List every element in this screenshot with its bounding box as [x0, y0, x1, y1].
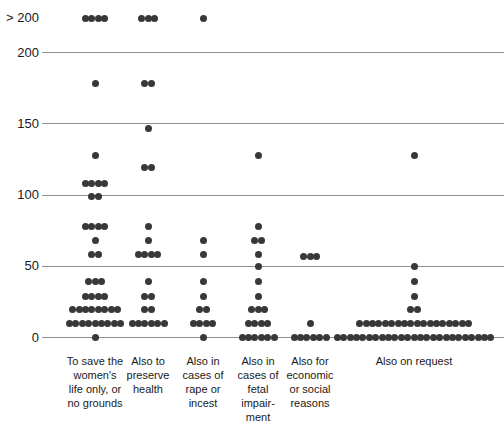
- data-dot: [209, 320, 216, 327]
- data-dot: [200, 15, 207, 22]
- data-dot: [154, 251, 161, 258]
- data-dot: [161, 320, 168, 327]
- data-dot: [101, 293, 108, 300]
- data-dot: [255, 278, 262, 285]
- gridline: [42, 52, 504, 53]
- y-axis-tick-label: 100: [0, 187, 39, 203]
- y-axis-tick-label: > 200: [0, 10, 39, 26]
- data-dot: [411, 293, 418, 300]
- data-dot: [148, 164, 155, 171]
- data-dot: [92, 80, 99, 87]
- y-axis-tick-label: 200: [0, 45, 39, 61]
- data-dot: [271, 334, 278, 341]
- data-dot: [255, 152, 262, 159]
- data-dot: [101, 223, 108, 230]
- data-dot: [92, 237, 99, 244]
- data-dot: [313, 253, 320, 260]
- data-dot: [465, 320, 472, 327]
- data-dot: [255, 251, 262, 258]
- data-dot: [323, 334, 330, 341]
- data-dot: [264, 320, 271, 327]
- gridline: [42, 123, 504, 124]
- y-axis-tick-label: 50: [0, 258, 39, 274]
- data-dot: [95, 193, 102, 200]
- data-dot: [148, 80, 155, 87]
- data-dot: [101, 15, 108, 22]
- data-dot: [114, 306, 121, 313]
- data-dot: [98, 278, 105, 285]
- dot-plot-chart: > 200200150100500To save the women's lif…: [0, 0, 504, 430]
- data-dot: [307, 320, 314, 327]
- x-axis-category-label: Also on request: [344, 354, 484, 368]
- data-dot: [200, 334, 207, 341]
- gridline: [42, 266, 504, 267]
- y-axis-tick-label: 0: [0, 330, 39, 346]
- gridline: [42, 195, 504, 196]
- data-dot: [200, 237, 207, 244]
- data-dot: [101, 180, 108, 187]
- data-dot: [148, 293, 155, 300]
- data-dot: [487, 334, 494, 341]
- data-dot: [261, 306, 268, 313]
- x-axis-category-label: Also for economic or social reasons: [270, 354, 350, 410]
- data-dot: [92, 152, 99, 159]
- data-dot: [200, 293, 207, 300]
- data-dot: [255, 223, 262, 230]
- data-dot: [145, 278, 152, 285]
- data-dot: [411, 263, 418, 270]
- data-dot: [148, 306, 155, 313]
- data-dot: [200, 278, 207, 285]
- data-dot: [203, 306, 210, 313]
- data-dot: [200, 251, 207, 258]
- data-dot: [414, 306, 421, 313]
- data-dot: [255, 293, 262, 300]
- data-dot: [95, 251, 102, 258]
- data-dot: [92, 334, 99, 341]
- data-dot: [151, 15, 158, 22]
- data-dot: [145, 223, 152, 230]
- data-dot: [411, 152, 418, 159]
- data-dot: [258, 237, 265, 244]
- data-dot: [255, 263, 262, 270]
- y-axis-tick-label: 150: [0, 116, 39, 132]
- data-dot: [117, 320, 124, 327]
- data-dot: [145, 237, 152, 244]
- data-dot: [411, 278, 418, 285]
- data-dot: [145, 125, 152, 132]
